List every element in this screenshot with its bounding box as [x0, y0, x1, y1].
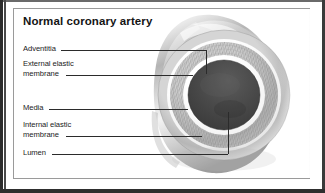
leader-line-media — [49, 109, 188, 110]
page-edge-bottom — [0, 189, 325, 193]
leader-line-adventitia-drop — [206, 50, 207, 74]
label-internal-elastic-membrane: Internal elastic — [23, 120, 71, 130]
label-media: Media — [23, 103, 43, 113]
artery-illustration — [150, 9, 310, 178]
label-lumen: Lumen — [23, 148, 46, 158]
page-edge-left — [0, 0, 3, 193]
page-edge-left-inner — [4, 0, 6, 193]
leader-line-lumen — [52, 154, 228, 155]
leader-line-adventitia — [61, 50, 207, 51]
label-adventitia: Adventitia — [23, 44, 56, 54]
leader-line-lumen-riser — [228, 112, 229, 154]
figure-page: Normal coronary artery — [0, 0, 325, 193]
figure-title: Normal coronary artery — [23, 15, 152, 27]
label-external-elastic-membrane: External elastic — [23, 59, 74, 69]
label-internal-elastic-membrane-line2: membrane — [23, 130, 59, 140]
page-edge-top — [0, 0, 325, 2]
label-external-elastic-membrane-line2: membrane — [23, 69, 59, 79]
leader-line-internal-elastic-membrane — [66, 136, 202, 137]
leader-line-external-elastic-membrane — [66, 75, 193, 76]
